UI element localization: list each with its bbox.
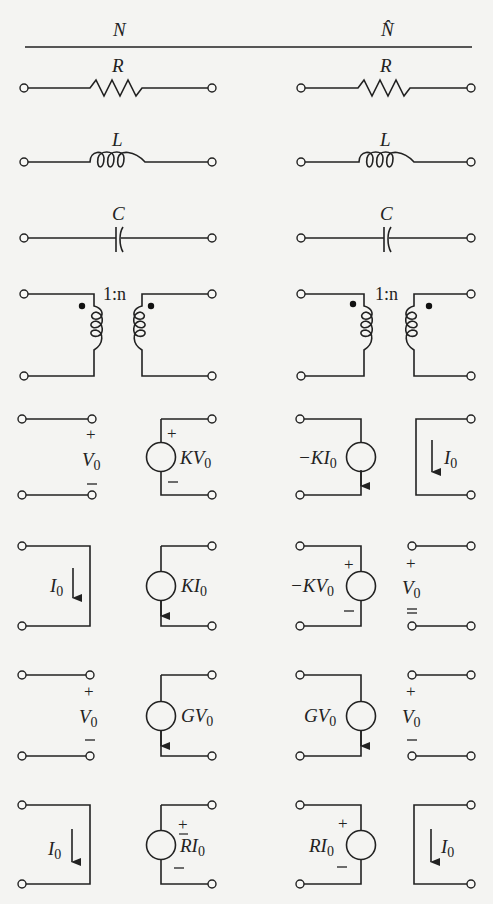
turns-ratio-label: 1:n (103, 284, 126, 304)
capacitor-left: C (20, 203, 216, 252)
polarity-dot-icon (426, 303, 432, 309)
terminal (297, 234, 305, 242)
source-value-label: KI0 (180, 575, 207, 599)
terminal (408, 671, 416, 679)
inductor-left: L (20, 129, 216, 167)
voltage-label: V0 (402, 706, 421, 730)
terminal (467, 801, 475, 809)
terminal (297, 84, 305, 92)
voltage-label: V0 (402, 577, 421, 601)
terminal (296, 880, 304, 888)
terminal (208, 542, 216, 550)
terminal (467, 880, 475, 888)
row-inductor: L L (20, 129, 475, 167)
terminal (296, 752, 304, 760)
voltage-source-icon (347, 572, 376, 601)
short-circuit-wire (416, 419, 467, 495)
source-value-label: GV0 (181, 705, 213, 729)
terminal (408, 752, 416, 760)
terminal (467, 622, 475, 630)
column-header: N N̂ (25, 19, 472, 47)
row-ccvs: I0 + RI0 + RI0 I0 (18, 801, 475, 888)
terminal (297, 158, 305, 166)
source-value-label: KV0 (179, 447, 211, 471)
terminal (88, 415, 96, 423)
right-column-title: N̂ (380, 19, 395, 40)
cccs-left: I0 KI0 (18, 542, 216, 630)
polarity-dot-icon (350, 301, 356, 307)
terminal (20, 234, 28, 242)
row-vcvs: + V0 + KV0 −KI0 I0 (18, 415, 475, 499)
plus-sign: + (86, 425, 96, 444)
source-value-label: −KI0 (298, 447, 337, 471)
terminal (296, 801, 304, 809)
current-source-icon (147, 572, 176, 601)
plus-sign: + (406, 682, 416, 701)
capacitor-right: C (297, 203, 475, 252)
polarity-dot-icon (79, 303, 85, 309)
terminal (208, 752, 216, 760)
terminal (467, 290, 475, 298)
terminal (296, 622, 304, 630)
terminal (408, 622, 416, 630)
polarity-dot-icon (148, 303, 154, 309)
open-port-wires (26, 675, 86, 756)
primary-coil-icon (28, 294, 102, 376)
terminal (86, 671, 94, 679)
terminal (296, 542, 304, 550)
voltage-label: V0 (82, 449, 101, 473)
terminal (296, 671, 304, 679)
current-source-icon (347, 702, 376, 731)
terminal (18, 671, 26, 679)
vcvs-left: + V0 + KV0 (18, 415, 216, 499)
terminal (467, 372, 475, 380)
open-port-wires (416, 546, 467, 626)
capacitor-icon (28, 227, 208, 252)
secondary-coil-icon (134, 294, 208, 376)
voltage-source-icon (347, 831, 376, 860)
voltage-source-icon (147, 831, 176, 860)
terminal (467, 84, 475, 92)
plus-sign: + (167, 424, 177, 443)
terminal (86, 752, 94, 760)
capacitor-icon (305, 227, 467, 252)
terminal (296, 491, 304, 499)
row-resistor: R R (20, 55, 475, 96)
row-capacitor: C C (20, 203, 475, 252)
plus-sign: + (406, 554, 416, 573)
terminal (208, 622, 216, 630)
resistor-icon (305, 80, 467, 96)
current-label: I0 (47, 838, 61, 862)
terminal (208, 290, 216, 298)
source-value-label: −KV0 (290, 575, 334, 599)
terminal (208, 671, 216, 679)
terminal (208, 234, 216, 242)
primary-coil-icon (305, 294, 372, 376)
terminal (208, 801, 216, 809)
open-port-wires (26, 419, 88, 495)
source-value-label: RI0 (308, 835, 334, 859)
left-column-title: N (112, 19, 127, 40)
ccvs-left: I0 + RI0 (18, 801, 216, 888)
voltage-label: V0 (79, 706, 98, 730)
inductor-icon (305, 152, 467, 167)
terminal (467, 491, 475, 499)
cccs-right: + −KV0 + V0 (290, 542, 475, 630)
current-label: I0 (440, 836, 454, 860)
terminal (208, 415, 216, 423)
short-circuit-wire (26, 805, 90, 884)
terminal (18, 752, 26, 760)
terminal (296, 415, 304, 423)
terminal (20, 290, 28, 298)
terminal (20, 158, 28, 166)
terminal (18, 415, 26, 423)
resistor-label: R (379, 55, 392, 76)
transformer-right: 1:n (297, 284, 475, 380)
terminal (467, 671, 475, 679)
current-label: I0 (49, 575, 63, 599)
terminal (467, 234, 475, 242)
transformer-left: 1:n (20, 284, 216, 380)
terminal (467, 158, 475, 166)
current-source-icon (147, 702, 176, 731)
current-label: I0 (443, 447, 457, 471)
